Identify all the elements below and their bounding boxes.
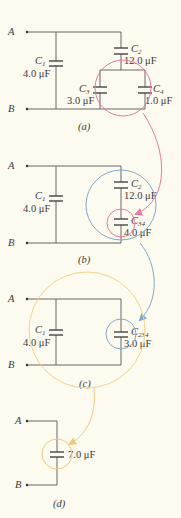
capacitor-c4-icon bbox=[138, 87, 152, 93]
capacitor-c1-icon bbox=[49, 61, 63, 66]
panel-d: A B 7.0 μF (d) bbox=[14, 415, 95, 510]
terminal-b-node bbox=[26, 364, 28, 366]
terminal-a-node bbox=[26, 298, 28, 300]
panel-a: A B C1 4.0 μF C2 12.0 μF C3 3.0 μF C4 1.… bbox=[7, 26, 172, 133]
c1-value: 4.0 μF bbox=[23, 68, 50, 79]
capacitor-ceq-icon bbox=[50, 452, 64, 457]
terminal-b-node bbox=[26, 108, 28, 110]
terminal-a-node bbox=[26, 165, 28, 167]
terminal-b-label: B bbox=[8, 359, 15, 370]
terminal-b-label: B bbox=[8, 103, 15, 114]
c1-value: 4.0 μF bbox=[23, 337, 50, 348]
terminal-a-label: A bbox=[14, 415, 22, 426]
capacitor-c2-icon bbox=[114, 48, 128, 54]
panel-b: A B C1 4.0 μF C2 12.0 μF C34 4.0 μF (b) bbox=[7, 160, 157, 266]
capacitor-c234-icon bbox=[114, 332, 128, 337]
terminal-a-label: A bbox=[7, 26, 15, 37]
terminal-a-label: A bbox=[7, 293, 15, 304]
capacitor-c2-icon bbox=[114, 182, 128, 188]
highlight-circle-pink bbox=[95, 60, 151, 116]
c3-value: 3.0 μF bbox=[67, 95, 94, 106]
terminal-a-node bbox=[26, 31, 28, 33]
terminal-a-node bbox=[26, 420, 28, 422]
arrow-orange-c-to-d bbox=[70, 388, 94, 444]
panel-d-caption: (d) bbox=[53, 498, 66, 510]
terminal-a-label: A bbox=[7, 160, 15, 171]
highlight-circle-yellow bbox=[29, 272, 145, 388]
capacitor-c1-icon bbox=[49, 330, 63, 335]
c2-value: 12.0 μF bbox=[124, 190, 157, 201]
terminal-b-label: B bbox=[8, 237, 15, 248]
terminal-b-node bbox=[26, 242, 28, 244]
terminal-b-node bbox=[26, 484, 28, 486]
c1-name: C1 bbox=[35, 55, 46, 68]
c1-name: C1 bbox=[35, 190, 46, 203]
panel-b-caption: (b) bbox=[78, 254, 91, 266]
c1-value: 4.0 μF bbox=[23, 203, 50, 214]
arrow-blue-b-to-c bbox=[140, 243, 154, 320]
capacitor-reduction-diagram: A B C1 4.0 μF C2 12.0 μF C3 3.0 μF C4 1.… bbox=[0, 0, 181, 518]
capacitor-c34-icon bbox=[114, 219, 128, 225]
panel-c: A B C1 4.0 μF C234 3.0 μF (c) bbox=[7, 272, 151, 390]
panel-a-caption: (a) bbox=[78, 121, 91, 133]
c1-name: C1 bbox=[35, 324, 46, 337]
terminal-b-label: B bbox=[15, 479, 22, 490]
capacitor-c1-icon bbox=[49, 196, 63, 201]
